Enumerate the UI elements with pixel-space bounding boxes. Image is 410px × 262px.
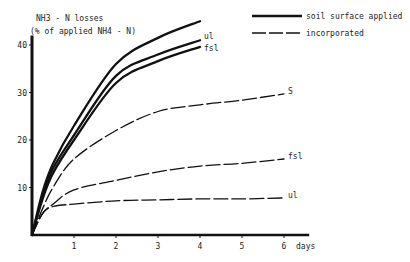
series-end-label: S xyxy=(288,87,293,96)
y-tick-label: 30 xyxy=(17,89,27,98)
x-axis-title: days xyxy=(296,242,315,251)
y-tick-label: 10 xyxy=(17,184,27,193)
series-end-label: fsl xyxy=(204,44,219,53)
x-tick-label: 1 xyxy=(72,242,77,251)
x-tick-label: 2 xyxy=(114,242,119,251)
x-tick-label: 5 xyxy=(240,242,245,251)
y-axis-title: NH3 - N losses (% of applied NH4 - N) xyxy=(30,14,136,36)
series-end-label: ul xyxy=(204,32,214,41)
series-line-5 xyxy=(32,198,284,235)
series-group xyxy=(32,21,284,235)
series-end-label: fsl xyxy=(288,152,303,161)
series-end-label: ul xyxy=(288,191,298,200)
series-line-3 xyxy=(32,94,284,235)
y-axis-title-line1: NH3 - N losses xyxy=(36,14,104,23)
x-tick-label: 6 xyxy=(282,242,287,251)
series-labels: ulfslSfslul xyxy=(204,32,303,200)
axes: 10203040123456days xyxy=(17,36,315,252)
y-axis-title-line2: (% of applied NH4 - N) xyxy=(30,27,136,36)
y-tick-label: 40 xyxy=(17,41,27,50)
legend: soil surface applied incorporated xyxy=(252,12,403,38)
series-line-4 xyxy=(32,159,284,235)
y-tick-label: 20 xyxy=(17,136,27,145)
legend-label-incorporated: incorporated xyxy=(306,29,364,38)
series-line-0 xyxy=(32,21,200,235)
x-tick-label: 3 xyxy=(156,242,161,251)
x-tick-label: 4 xyxy=(198,242,203,251)
nh3-loss-chart: NH3 - N losses (% of applied NH4 - N) so… xyxy=(0,0,410,262)
legend-label-surface: soil surface applied xyxy=(306,12,403,21)
